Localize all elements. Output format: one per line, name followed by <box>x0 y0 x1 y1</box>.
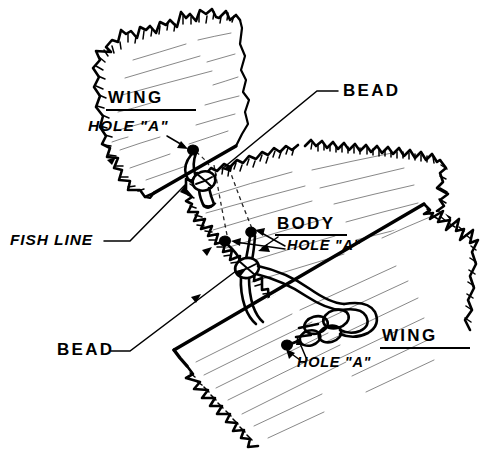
diagram-canvas: WING HOLE "A" BEAD FISH LINE BODY HOLE "… <box>0 0 481 460</box>
label-hole-a-top: HOLE "A" <box>88 117 168 134</box>
wing-attachment-diagram: WING HOLE "A" BEAD FISH LINE BODY HOLE "… <box>0 0 481 460</box>
label-body: BODY <box>277 214 335 233</box>
body-edge-arrow <box>202 247 212 256</box>
lower-wing-hole-a-knob <box>282 340 293 350</box>
label-bead-top: BEAD <box>343 81 400 100</box>
label-hole-a-bottom: HOLE "A" <box>297 354 372 370</box>
label-wing-bottom: WING <box>382 326 437 345</box>
label-hole-a-body: HOLE "A" <box>287 237 362 253</box>
label-fish-line: FISH LINE <box>10 231 93 248</box>
label-wing-top: WING <box>108 88 163 107</box>
leader-fish-line <box>104 185 185 241</box>
label-bead-bottom: BEAD <box>57 340 114 359</box>
